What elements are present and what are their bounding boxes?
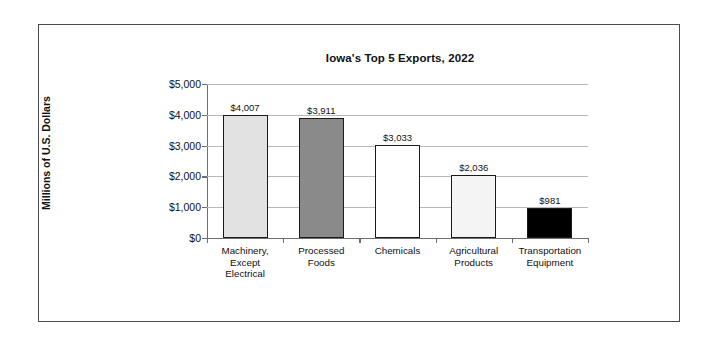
- x-axis-category-label: Machinery,ExceptElectrical: [222, 245, 269, 280]
- y-axis-tick-mark: [202, 84, 207, 85]
- y-axis-tick-label: $2,000: [169, 170, 201, 182]
- y-axis-tick-label: $3,000: [169, 140, 201, 152]
- bar: [375, 145, 420, 238]
- bar-value-label: $4,007: [231, 102, 260, 113]
- x-axis-tick-mark: [207, 238, 208, 243]
- bar-value-label: $2,036: [459, 162, 488, 173]
- category-label-line: Foods: [298, 257, 344, 269]
- y-axis-tick-label: $1,000: [169, 201, 201, 213]
- bar-value-label: $3,033: [383, 132, 412, 143]
- gridline: [207, 84, 588, 85]
- category-label-line: Processed: [298, 245, 344, 257]
- category-label-line: Transportation: [518, 245, 581, 257]
- category-label-line: Equipment: [518, 257, 581, 269]
- bar: [223, 115, 268, 238]
- category-label-line: Products: [449, 257, 498, 269]
- bar-value-label: $981: [539, 195, 560, 206]
- x-axis-category-label: TransportationEquipment: [518, 245, 581, 268]
- y-axis-tick-label: $5,000: [169, 78, 201, 90]
- x-axis-line: [207, 238, 589, 239]
- x-axis-tick-mark: [588, 238, 589, 243]
- x-axis-tick-mark: [512, 238, 513, 243]
- x-axis-tick-mark: [436, 238, 437, 243]
- chart-page: Iowa's Top 5 Exports, 2022 Millions of U…: [0, 0, 716, 345]
- y-axis-tick-mark: [202, 146, 207, 147]
- x-axis-tick-mark: [359, 238, 360, 243]
- y-axis-tick-label: $4,000: [169, 109, 201, 121]
- y-axis-tick-mark: [202, 115, 207, 116]
- plot-area: $4,007$3,911$3,033$2,036$981: [207, 84, 588, 238]
- category-label-line: Agricultural: [449, 245, 498, 257]
- y-axis-tick-label: $0: [189, 232, 201, 244]
- bar: [527, 208, 572, 238]
- category-label-line: Electrical: [222, 268, 269, 280]
- y-axis-tick-mark: [202, 207, 207, 208]
- y-axis-title: Millions of U.S. Dollars: [40, 63, 52, 243]
- y-axis-tick-mark: [202, 176, 207, 177]
- category-label-line: Machinery,: [222, 245, 269, 257]
- x-axis-tick-mark: [283, 238, 284, 243]
- bar-value-label: $3,911: [307, 105, 335, 116]
- bar: [299, 118, 344, 238]
- bar: [451, 175, 496, 238]
- x-axis-category-label: AgriculturalProducts: [449, 245, 498, 268]
- x-axis-category-label: Chemicals: [375, 245, 421, 257]
- y-axis-tick-labels: $0$1,000$2,000$3,000$4,000$5,000: [140, 84, 201, 238]
- chart-title: Iowa's Top 5 Exports, 2022: [180, 52, 620, 64]
- category-label-line: Except: [222, 257, 269, 269]
- category-label-line: Chemicals: [375, 245, 421, 257]
- x-axis-category-label: ProcessedFoods: [298, 245, 344, 268]
